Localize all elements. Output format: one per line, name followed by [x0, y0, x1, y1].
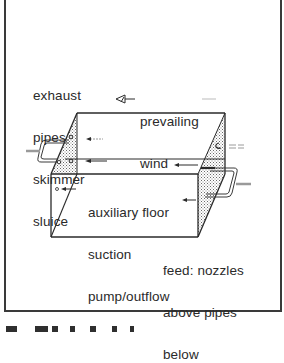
auxiliary-label-line-2: suction — [88, 248, 170, 262]
arrow-left-icon — [85, 159, 107, 163]
feed-label-line-3: below — [163, 348, 244, 362]
right-end-wall — [198, 113, 244, 237]
exhaust-label-line-3: skimmer — [33, 173, 85, 187]
caption-fragment — [52, 326, 58, 332]
auxiliary-label-line-3: pump/outflow — [88, 290, 170, 304]
wind-label-line-1: prevailing — [140, 115, 199, 129]
wind-label-line-2: wind — [140, 157, 199, 171]
caption-fragment — [70, 326, 75, 332]
arrow-left-icon — [182, 198, 196, 202]
exhaust-label-line-2: pipes — [33, 131, 85, 145]
caption-fragment — [130, 326, 134, 332]
auxiliary-label: auxiliary floor suction pump/outflow — [88, 178, 170, 318]
exhaust-label-line-4: sluice — [33, 215, 85, 229]
caption-fragment — [6, 326, 17, 332]
exhaust-label-line-1: exhaust — [33, 89, 85, 103]
exhaust-label: exhaust pipes skimmer sluice — [33, 61, 85, 243]
feed-label-line-1: feed: nozzles — [163, 264, 244, 278]
arrow-left-icon — [86, 137, 103, 141]
wind-label: prevailing wind — [140, 87, 199, 185]
auxiliary-label-line-1: auxiliary floor — [88, 206, 170, 220]
feed-label-line-2: above pipes — [163, 306, 244, 320]
caption-fragment — [112, 326, 117, 332]
feed-label: feed: nozzles above pipes below — [163, 236, 244, 363]
caption-fragment — [35, 326, 48, 332]
caption-fragment — [90, 326, 96, 332]
